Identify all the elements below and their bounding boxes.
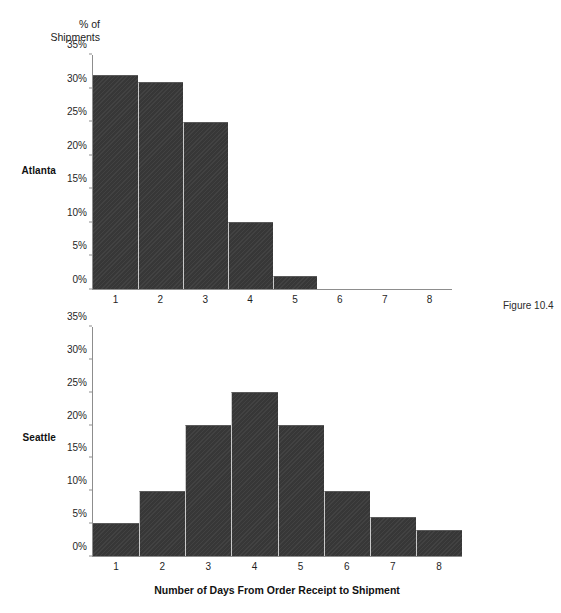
figure-container: % of Shipments Atlanta Seattle Figure 10… <box>0 0 561 613</box>
y-tick-mark-atlanta-10 <box>89 221 92 222</box>
y-tick-mark-seattle-15 <box>89 457 92 458</box>
x-tick-label-atlanta-4: 4 <box>228 294 273 305</box>
bar-slot <box>273 55 318 289</box>
bar-atlanta-day-4 <box>228 222 273 289</box>
bar-slot <box>278 327 324 556</box>
bar-atlanta-day-1 <box>93 75 138 289</box>
y-tick-mark-seattle-10 <box>89 490 92 491</box>
x-tick-label-seattle-2: 2 <box>139 561 185 572</box>
y-tick-label-atlanta-15: 15% <box>67 173 87 184</box>
y-tick-label-atlanta-20: 20% <box>67 139 87 150</box>
y-tick-mark-atlanta-25 <box>89 121 92 122</box>
bar-seattle-day-7 <box>370 517 416 556</box>
x-tick-label-atlanta-5: 5 <box>273 294 318 305</box>
y-tick-label-seattle-0: 0% <box>73 541 87 552</box>
y-tick-label-atlanta-30: 30% <box>67 72 87 83</box>
bar-slot <box>139 327 185 556</box>
x-axis-line-atlanta <box>92 289 452 290</box>
x-axis-title: Number of Days From Order Receipt to Shi… <box>92 584 462 596</box>
bar-slot <box>93 327 139 556</box>
x-tick-label-seattle-1: 1 <box>93 561 139 572</box>
bar-slot <box>407 55 452 289</box>
bar-slot <box>183 55 228 289</box>
bar-slot <box>231 327 277 556</box>
x-tick-labels-atlanta: 12345678 <box>93 294 452 305</box>
bar-slot <box>370 327 416 556</box>
bar-slot <box>185 327 231 556</box>
bar-slot <box>228 55 273 289</box>
y-tick-label-seattle-5: 5% <box>73 508 87 519</box>
bar-group-seattle <box>93 327 462 556</box>
x-tick-label-atlanta-2: 2 <box>138 294 183 305</box>
y-tick-mark-atlanta-30 <box>89 87 92 88</box>
y-tick-label-atlanta-0: 0% <box>73 274 87 285</box>
bar-seattle-day-1 <box>93 523 139 556</box>
y-tick-mark-atlanta-35 <box>89 54 92 55</box>
y-tick-label-seattle-25: 25% <box>67 376 87 387</box>
x-tick-label-seattle-6: 6 <box>324 561 370 572</box>
bar-group-atlanta <box>93 55 452 289</box>
bar-slot <box>93 55 138 289</box>
y-tick-label-seattle-30: 30% <box>67 343 87 354</box>
x-tick-label-seattle-3: 3 <box>185 561 231 572</box>
bar-atlanta-day-5 <box>273 276 318 289</box>
bar-slot <box>317 55 362 289</box>
bar-slot <box>416 327 462 556</box>
plot-area-seattle: 12345678 0%5%10%15%20%25%30%35% <box>92 327 462 557</box>
y-tick-label-atlanta-5: 5% <box>73 240 87 251</box>
chart-panel-atlanta: 12345678 0%5%10%15%20%25%30%35% <box>0 0 480 312</box>
y-tick-mark-seattle-35 <box>89 326 92 327</box>
x-tick-label-atlanta-7: 7 <box>362 294 407 305</box>
y-tick-mark-seattle-5 <box>89 523 92 524</box>
figure-caption: Figure 10.4 <box>503 300 554 311</box>
x-tick-label-seattle-4: 4 <box>231 561 277 572</box>
bar-seattle-day-5 <box>278 425 324 556</box>
y-tick-mark-seattle-25 <box>89 391 92 392</box>
bar-seattle-day-8 <box>416 530 462 556</box>
y-tick-mark-seattle-30 <box>89 358 92 359</box>
y-tick-label-seattle-10: 10% <box>67 475 87 486</box>
y-tick-mark-atlanta-20 <box>89 154 92 155</box>
x-tick-label-atlanta-6: 6 <box>317 294 362 305</box>
plot-area-atlanta: 12345678 0%5%10%15%20%25%30%35% <box>92 55 452 290</box>
y-tick-label-atlanta-35: 35% <box>67 39 87 50</box>
y-tick-label-atlanta-10: 10% <box>67 206 87 217</box>
bar-slot <box>138 55 183 289</box>
bar-seattle-day-4 <box>231 392 277 556</box>
y-tick-mark-atlanta-5 <box>89 255 92 256</box>
bar-slot <box>362 55 407 289</box>
bar-slot <box>324 327 370 556</box>
bar-seattle-day-6 <box>324 491 370 556</box>
x-tick-label-atlanta-8: 8 <box>407 294 452 305</box>
x-tick-labels-seattle: 12345678 <box>93 561 462 572</box>
x-tick-label-atlanta-3: 3 <box>183 294 228 305</box>
bar-atlanta-day-2 <box>138 82 183 289</box>
x-tick-label-seattle-8: 8 <box>416 561 462 572</box>
bar-seattle-day-2 <box>139 491 185 556</box>
chart-panel-seattle: 12345678 0%5%10%15%20%25%30%35% Number o… <box>0 318 480 613</box>
y-tick-label-seattle-15: 15% <box>67 442 87 453</box>
y-tick-label-seattle-35: 35% <box>67 311 87 322</box>
x-tick-label-seattle-7: 7 <box>370 561 416 572</box>
x-tick-label-atlanta-1: 1 <box>93 294 138 305</box>
bar-atlanta-day-3 <box>183 122 228 289</box>
y-tick-mark-seattle-20 <box>89 424 92 425</box>
y-tick-mark-seattle-0 <box>89 556 92 557</box>
y-tick-mark-atlanta-0 <box>89 289 92 290</box>
x-tick-label-seattle-5: 5 <box>278 561 324 572</box>
bar-seattle-day-3 <box>185 425 231 556</box>
y-tick-label-seattle-20: 20% <box>67 409 87 420</box>
x-axis-line-seattle <box>92 556 462 557</box>
y-tick-mark-atlanta-15 <box>89 188 92 189</box>
y-tick-label-atlanta-25: 25% <box>67 106 87 117</box>
